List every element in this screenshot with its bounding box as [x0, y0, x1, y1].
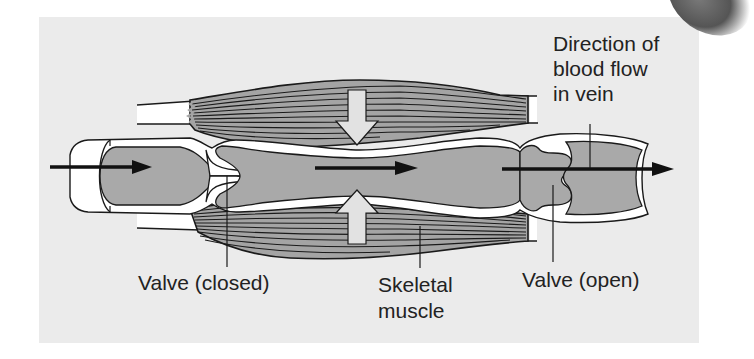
label-valve-open: Valve (open) [522, 268, 640, 291]
label-direction-line-1: Direction of [553, 32, 659, 55]
label-direction-line-3: in vein [553, 82, 614, 105]
label-skeletal-muscle-line-2: muscle [378, 299, 445, 322]
label-skeletal-muscle-line-1: Skeletal [378, 273, 453, 296]
label-valve-closed: Valve (closed) [138, 271, 270, 294]
label-direction-line-2: blood flow [553, 57, 648, 80]
